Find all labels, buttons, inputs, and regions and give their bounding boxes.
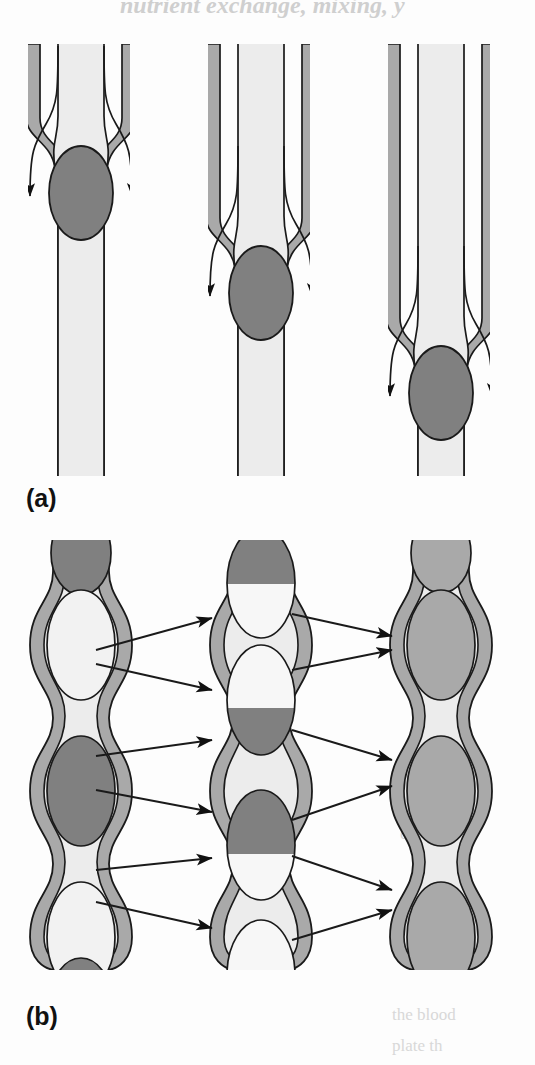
bolus-mixed <box>407 590 475 700</box>
bolus-light <box>47 590 115 700</box>
panel-b-group <box>30 511 492 1042</box>
mixing-arrow <box>292 730 392 760</box>
bolus-light <box>47 882 115 992</box>
figure-container: nutrient exchange, mixing, y ortio the b… <box>0 0 535 1065</box>
mixing-arrow <box>292 856 392 890</box>
panel-b-column-unmixed <box>30 511 132 1042</box>
bolus-dark <box>51 511 111 595</box>
panel-a-group <box>26 44 496 476</box>
bolus-dark <box>49 146 113 240</box>
bolus-dark <box>409 346 473 440</box>
bolus-mixed <box>407 882 475 992</box>
panel-b-column-partially-mixed <box>210 520 312 1040</box>
bolus-mixed <box>411 513 471 593</box>
figure-svg <box>0 0 535 1065</box>
bolus-mixed <box>407 736 475 846</box>
panel-a-tube-3 <box>386 44 496 476</box>
panel-a-tube-2 <box>206 44 316 476</box>
mixing-arrow <box>96 858 212 870</box>
bolus-dark <box>229 246 293 340</box>
panel-b-column-fully-mixed <box>390 513 492 992</box>
panel-label-a: (a) <box>26 484 57 513</box>
bolus-dark <box>51 958 111 1042</box>
panel-a-tube-1 <box>26 44 140 476</box>
panel-label-b: (b) <box>26 1002 58 1031</box>
